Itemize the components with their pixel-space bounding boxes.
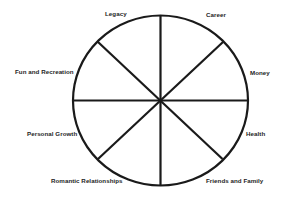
label-personal-growth: Personal Growth [27, 130, 77, 137]
label-money: Money [250, 69, 270, 76]
label-romantic-relationships: Romantic Relationships [51, 177, 123, 184]
label-career: Career [206, 11, 226, 18]
label-health: Health [246, 130, 265, 137]
label-friends-and-family: Friends and Family [206, 177, 263, 184]
life-wheel-diagram [0, 0, 282, 197]
label-legacy: Legacy [105, 10, 127, 17]
label-fun-and-recreation: Fun and Recreation [15, 68, 74, 75]
